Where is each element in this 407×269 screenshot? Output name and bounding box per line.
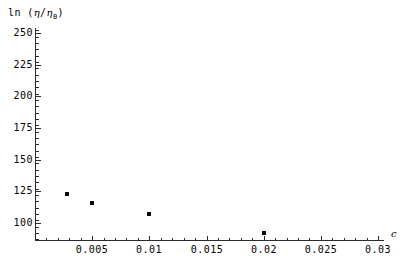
x-axis-minor-tick <box>298 238 299 241</box>
y-axis-minor-tick <box>36 49 39 50</box>
y-axis-tick-label: 175 <box>13 123 33 133</box>
y-axis-minor-tick <box>36 208 39 209</box>
y-axis-minor-tick <box>36 87 39 88</box>
x-axis-minor-tick <box>46 238 47 241</box>
x-axis-minor-tick <box>104 238 105 241</box>
x-axis-tick-label: 0.02 <box>251 245 277 255</box>
x-axis-tick-label: 0.025 <box>305 245 338 255</box>
x-axis-minor-tick <box>229 238 230 241</box>
x-axis-minor-tick <box>332 238 333 241</box>
y-axis-minor-tick <box>36 132 39 133</box>
x-axis-minor-tick <box>161 238 162 241</box>
y-axis-minor-tick <box>36 239 39 240</box>
data-point <box>147 212 151 216</box>
x-axis-major-tick <box>207 236 208 241</box>
y-axis-title-prefix: ln ( <box>8 7 34 18</box>
x-axis-minor-tick <box>126 238 127 241</box>
y-axis-major-tick <box>36 160 41 161</box>
y-axis-tick-label: 150 <box>13 155 33 165</box>
y-axis-major-tick <box>36 191 41 192</box>
x-axis-minor-tick <box>81 238 82 241</box>
y-axis-tick-label: 125 <box>13 186 33 196</box>
x-axis-major-tick <box>92 236 93 241</box>
y-axis-minor-tick <box>36 151 39 152</box>
scatter-plot-figure: ln (η/η0) c 100125150175200225250 0.0050… <box>0 0 407 269</box>
x-axis-minor-tick <box>355 238 356 241</box>
x-axis-minor-tick <box>138 238 139 241</box>
y-axis-minor-tick <box>36 163 39 164</box>
y-axis-minor-tick <box>36 189 39 190</box>
y-axis-minor-tick <box>36 125 39 126</box>
x-axis-major-tick <box>378 236 379 241</box>
y-axis-minor-tick <box>36 68 39 69</box>
y-axis-minor-tick <box>36 94 39 95</box>
y-axis-major-tick <box>36 33 41 34</box>
x-axis-minor-tick <box>172 238 173 241</box>
y-axis-minor-tick <box>36 195 39 196</box>
y-axis-tick-label: 200 <box>13 91 33 101</box>
y-axis-major-tick <box>36 128 41 129</box>
y-axis-title-suffix: ) <box>58 7 64 18</box>
y-axis-minor-tick <box>36 81 39 82</box>
y-axis-minor-tick <box>36 106 39 107</box>
x-axis-tick-label: 0.005 <box>76 245 109 255</box>
y-axis-line <box>35 28 36 241</box>
y-axis-minor-tick <box>36 30 39 31</box>
y-axis-minor-tick <box>36 214 39 215</box>
y-axis-minor-tick <box>36 37 39 38</box>
y-axis-major-tick <box>36 96 41 97</box>
y-axis-minor-tick <box>36 233 39 234</box>
x-axis-major-tick <box>321 236 322 241</box>
y-axis-tick-label: 100 <box>13 218 33 228</box>
y-axis-minor-tick <box>36 138 39 139</box>
data-point <box>262 231 266 235</box>
y-axis-minor-tick <box>36 100 39 101</box>
y-axis-minor-tick <box>36 43 39 44</box>
x-axis-minor-tick <box>309 238 310 241</box>
x-axis-major-tick <box>264 236 265 241</box>
y-axis-major-tick <box>36 223 41 224</box>
x-axis-minor-tick <box>195 238 196 241</box>
y-axis-minor-tick <box>36 157 39 158</box>
x-axis-major-tick <box>149 236 150 241</box>
x-axis-minor-tick <box>184 238 185 241</box>
x-axis-tick-label: 0.01 <box>136 245 162 255</box>
y-axis-minor-tick <box>36 227 39 228</box>
y-axis-minor-tick <box>36 182 39 183</box>
x-axis-tick-label: 0.015 <box>191 245 224 255</box>
x-axis-title: c <box>391 229 397 239</box>
x-axis-minor-tick <box>252 238 253 241</box>
x-axis-minor-tick <box>115 238 116 241</box>
data-point <box>65 192 69 196</box>
y-axis-minor-tick <box>36 62 39 63</box>
y-axis-minor-tick <box>36 201 39 202</box>
x-axis-minor-tick <box>241 238 242 241</box>
y-axis-minor-tick <box>36 75 39 76</box>
x-axis-minor-tick <box>69 238 70 241</box>
y-axis-title: ln (η/η0) <box>8 8 64 21</box>
y-axis-minor-tick <box>36 56 39 57</box>
x-axis-minor-tick <box>218 238 219 241</box>
y-axis-minor-tick <box>36 176 39 177</box>
y-axis-minor-tick <box>36 220 39 221</box>
y-axis-tick-label: 250 <box>13 28 33 38</box>
data-point <box>90 201 94 205</box>
x-axis-minor-tick <box>344 238 345 241</box>
x-axis-minor-tick <box>58 238 59 241</box>
y-axis-minor-tick <box>36 119 39 120</box>
x-axis-minor-tick <box>367 238 368 241</box>
y-axis-minor-tick <box>36 113 39 114</box>
x-axis-tick-label: 0.03 <box>365 245 391 255</box>
x-axis-minor-tick <box>275 238 276 241</box>
y-axis-minor-tick <box>36 170 39 171</box>
x-axis-minor-tick <box>287 238 288 241</box>
y-axis-major-tick <box>36 65 41 66</box>
y-axis-tick-label: 225 <box>13 60 33 70</box>
y-axis-minor-tick <box>36 144 39 145</box>
